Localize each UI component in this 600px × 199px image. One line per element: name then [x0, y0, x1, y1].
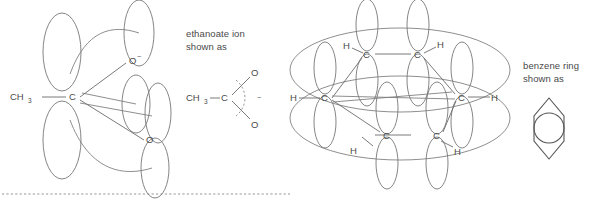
- benzene-ring-symbol: [534, 98, 564, 159]
- label-methyl-subscript: 3: [28, 97, 32, 104]
- carbon-top-left: C: [363, 49, 370, 60]
- carbon-left: C: [321, 92, 328, 103]
- benzene-p-orbital-diagram: C C C C C C H H H H H H: [290, 0, 510, 189]
- bond-carbon-hydrogen-bottom-right: [441, 141, 453, 147]
- skeletal-label-charge: −: [257, 94, 261, 101]
- ethanoate-caption-line-1: ethanoate ion: [186, 27, 245, 40]
- ethanoate-skeletal-formula: CH 3 C O O −: [186, 67, 261, 130]
- skeletal-label-carbon: C: [221, 92, 228, 103]
- skeletal-bond-carbon-oxygen-bottom: [232, 101, 250, 119]
- figure-root: .lobe { fill: none; stroke: #777777; str…: [0, 0, 600, 199]
- skeletal-label-methyl: CH: [186, 92, 200, 103]
- carbon-top-right: C: [414, 49, 421, 60]
- p-orbital-lobe: [426, 82, 448, 134]
- orbital-overlap-arc: [70, 29, 139, 74]
- bond-carbon-hydrogen-bottom-left: [362, 137, 373, 146]
- p-orbital-lobe: [356, 0, 378, 51]
- label-oxygen-top-charge: −: [137, 53, 141, 60]
- hydrogen-bottom-left: H: [350, 145, 357, 156]
- ethanoate-caption: ethanoate ion shown as: [186, 27, 245, 53]
- label-oxygen-bottom: O: [146, 134, 153, 145]
- hydrogen-top-left: H: [343, 40, 350, 51]
- benzene-caption-line-1: benzene ring: [523, 59, 579, 72]
- label-methyl: CH: [10, 91, 24, 102]
- p-orbital-lobe: [376, 137, 398, 189]
- carbon-bottom-left: C: [383, 130, 390, 141]
- p-orbital-lobe: [43, 101, 81, 179]
- benzene-caption: benzene ring shown as: [523, 59, 579, 85]
- carbon-right: C: [458, 92, 465, 103]
- p-orbital-lobe: [43, 13, 81, 91]
- skeletal-label-methyl-subscript: 3: [204, 98, 208, 105]
- ring-perspective-line: [333, 92, 452, 102]
- hydrogen-right: H: [491, 92, 498, 103]
- bond-carbon-oxygen-bottom: [80, 100, 144, 140]
- bond-carbon-carbon-lower-left: [332, 100, 380, 132]
- p-orbital-lobe: [314, 96, 336, 148]
- ethanoate-ion-p-orbital-diagram: CH 3 C O − O: [10, 0, 171, 198]
- hydrogen-top-right: H: [437, 39, 444, 50]
- orbital-overlap-arc: [70, 120, 152, 172]
- p-orbital-lobe: [314, 42, 336, 94]
- chemistry-orbital-figure: .lobe { fill: none; stroke: #777777; str…: [0, 0, 600, 199]
- skeletal-label-oxygen-top: O: [251, 67, 258, 78]
- label-carbon: C: [69, 91, 76, 102]
- orbital-axis-line: [80, 103, 152, 116]
- ring-perspective-line: [332, 96, 455, 99]
- delocalisation-dashed-arc: [236, 80, 245, 116]
- p-orbital-lobe: [141, 138, 169, 198]
- p-orbital-lobe: [407, 0, 429, 51]
- p-orbital-lobe: [426, 137, 448, 189]
- p-orbital-lobe: [451, 96, 473, 148]
- bond-carbon-carbon-lower-right: [443, 101, 456, 132]
- orbital-axis-line: [82, 93, 136, 104]
- hydrogen-left: H: [290, 92, 297, 103]
- skeletal-label-oxygen-bottom: O: [251, 119, 258, 130]
- p-orbital-lobe: [376, 82, 398, 134]
- label-oxygen-top: O: [129, 55, 136, 66]
- carbon-bottom-right: C: [433, 130, 440, 141]
- bond-carbon-oxygen-top: [80, 63, 126, 97]
- p-orbital-lobe: [451, 42, 473, 94]
- bond-carbon-hydrogen-top-right: [424, 47, 436, 53]
- benzene-caption-line-2: shown as: [523, 72, 579, 85]
- ethanoate-caption-line-2: shown as: [186, 40, 245, 53]
- hexagon-outline: [534, 98, 564, 159]
- skeletal-bond-carbon-oxygen-top: [232, 77, 250, 95]
- delocalisation-circle: [534, 113, 564, 143]
- bond-carbon-hydrogen-top-left: [352, 48, 363, 53]
- hydrogen-bottom-right: H: [454, 146, 461, 157]
